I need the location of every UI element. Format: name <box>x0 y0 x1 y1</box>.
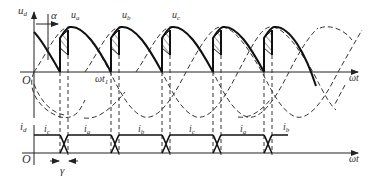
lower-origin-label: O <box>22 152 31 166</box>
upper-x-axis-label: ωt <box>349 72 359 83</box>
upper-origin-label: O <box>22 73 31 87</box>
commutation-guides <box>60 55 272 155</box>
phase-label-uc: uc <box>172 9 181 22</box>
rectifier-waveform-diagram: ud α ua ub uc O ωt1 ωt id ic ia ib ic ia… <box>0 0 379 179</box>
current-label-ic: ic <box>44 123 51 136</box>
output-voltage-solid <box>34 27 316 86</box>
gamma-label: γ <box>60 164 65 176</box>
current-label-ic2: ic <box>189 123 196 136</box>
current-label-ia2: ia <box>240 123 247 136</box>
alpha-label: α <box>51 9 57 21</box>
time-marker-label: ωt1 <box>95 73 108 86</box>
ud-axis-label: ud <box>18 4 28 18</box>
lower-x-axis-label: ωt <box>349 153 359 164</box>
phase-label-ub: ub <box>122 9 131 22</box>
phase-label-ua: ua <box>71 9 80 22</box>
current-waveforms <box>34 135 288 153</box>
current-label-ib: ib <box>138 123 145 136</box>
current-label-ib2: ib <box>283 121 290 134</box>
labels: ud α ua ub uc O ωt1 ωt id ic ia ib ic ia… <box>18 4 359 176</box>
current-label-ia: ia <box>84 123 91 136</box>
id-axis-label: id <box>20 120 27 134</box>
